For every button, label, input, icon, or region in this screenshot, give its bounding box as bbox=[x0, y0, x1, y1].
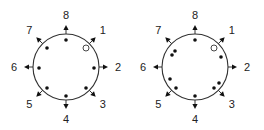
filled-dot bbox=[219, 55, 223, 59]
filled-dot bbox=[173, 49, 177, 53]
circle-diagram-2: 12345678 bbox=[140, 9, 250, 125]
arrow-direction-5: 5 bbox=[26, 90, 42, 109]
direction-label: 8 bbox=[192, 9, 198, 21]
arrow-direction-7: 7 bbox=[155, 24, 171, 43]
filled-dot bbox=[64, 38, 68, 42]
filled-dot bbox=[193, 38, 197, 42]
filled-dot bbox=[217, 81, 221, 85]
arrowhead-icon bbox=[192, 104, 197, 109]
direction-label: 7 bbox=[26, 24, 32, 36]
open-dot bbox=[211, 45, 217, 51]
direction-label: 5 bbox=[155, 98, 161, 110]
filled-dot bbox=[37, 66, 41, 70]
arrowhead-icon bbox=[63, 25, 68, 30]
arrowhead-icon bbox=[24, 64, 29, 69]
filled-dot bbox=[193, 94, 197, 98]
arrow-direction-6: 6 bbox=[140, 61, 162, 73]
filled-dot bbox=[174, 86, 178, 90]
arrow-direction-3: 3 bbox=[218, 90, 234, 109]
direction-label: 8 bbox=[63, 9, 69, 21]
filled-dot bbox=[92, 66, 96, 70]
arrow-direction-2: 2 bbox=[228, 61, 250, 73]
arrow-direction-1: 1 bbox=[89, 24, 105, 43]
arrow-direction-6: 6 bbox=[11, 61, 33, 73]
arrowhead-icon bbox=[192, 25, 197, 30]
direction-label: 3 bbox=[229, 98, 235, 110]
arrowhead-icon bbox=[103, 64, 108, 69]
direction-label: 4 bbox=[192, 113, 198, 125]
circle-diagram-1: 12345678 bbox=[11, 9, 121, 125]
arrow-direction-4: 4 bbox=[63, 100, 69, 125]
filled-dot bbox=[45, 46, 49, 50]
arrowhead-icon bbox=[63, 104, 68, 109]
filled-dot bbox=[168, 77, 172, 81]
direction-label: 6 bbox=[11, 61, 17, 73]
direction-label: 5 bbox=[26, 98, 32, 110]
filled-dot bbox=[212, 86, 216, 90]
direction-diagram-canvas: 1234567812345678 bbox=[0, 0, 264, 130]
boundary-circle bbox=[162, 34, 228, 100]
arrow-direction-5: 5 bbox=[155, 90, 171, 109]
direction-label: 1 bbox=[100, 24, 106, 36]
direction-label: 1 bbox=[229, 24, 235, 36]
direction-label: 7 bbox=[155, 24, 161, 36]
arrow-direction-8: 8 bbox=[63, 9, 69, 34]
filled-dot bbox=[84, 86, 88, 90]
direction-label: 4 bbox=[63, 113, 69, 125]
arrowhead-icon bbox=[153, 64, 158, 69]
arrow-direction-8: 8 bbox=[192, 9, 198, 34]
arrowhead-icon bbox=[232, 64, 237, 69]
filled-dot bbox=[170, 53, 174, 57]
arrow-direction-2: 2 bbox=[99, 61, 121, 73]
filled-dot bbox=[45, 86, 49, 90]
arrow-direction-4: 4 bbox=[192, 100, 198, 125]
filled-dot bbox=[64, 94, 68, 98]
direction-label: 2 bbox=[244, 61, 250, 73]
open-dot bbox=[83, 45, 89, 51]
direction-label: 3 bbox=[100, 98, 106, 110]
direction-label: 6 bbox=[140, 61, 146, 73]
direction-label: 2 bbox=[115, 61, 121, 73]
boundary-circle bbox=[33, 34, 99, 100]
arrow-direction-1: 1 bbox=[218, 24, 234, 43]
arrow-direction-3: 3 bbox=[89, 90, 105, 109]
arrow-direction-7: 7 bbox=[26, 24, 42, 43]
